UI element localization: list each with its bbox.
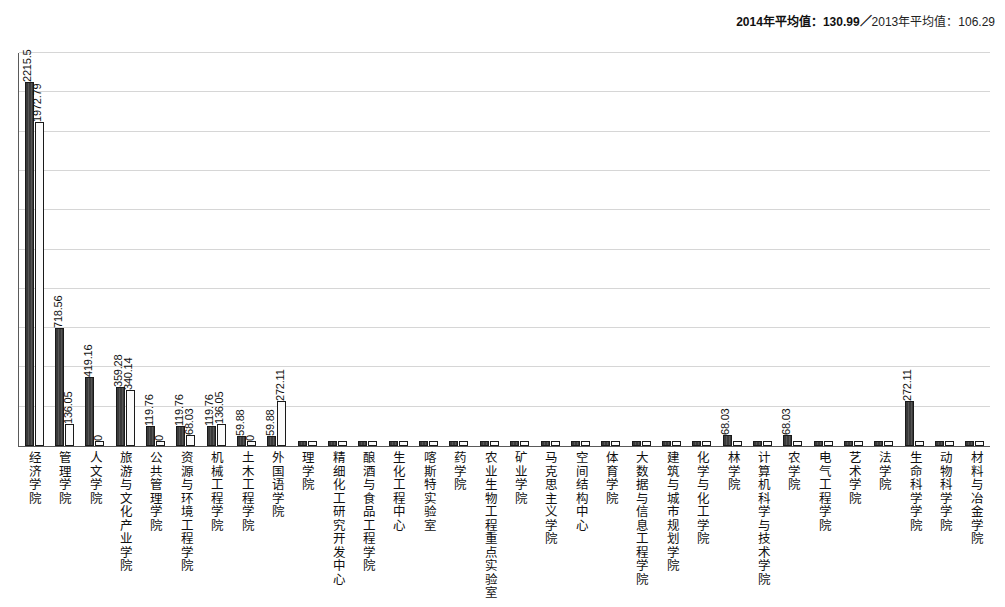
- bar-2013[interactable]: 0: [95, 441, 104, 446]
- bar-2013[interactable]: [551, 441, 560, 446]
- bar-2014[interactable]: [419, 441, 428, 446]
- bar-2013[interactable]: 0: [156, 441, 165, 446]
- bar-2013[interactable]: 272.11: [277, 401, 286, 446]
- bar-group[interactable]: [687, 53, 717, 446]
- bar-group[interactable]: [322, 53, 352, 446]
- bar-2014[interactable]: 68.03: [783, 435, 792, 446]
- bar-2013[interactable]: [733, 441, 742, 446]
- bar-2013[interactable]: 136.05: [217, 424, 226, 446]
- bar-2013[interactable]: [490, 441, 499, 446]
- bar-2013[interactable]: [824, 441, 833, 446]
- bar-2014[interactable]: 119.76: [146, 426, 155, 446]
- bar-2014[interactable]: [632, 441, 641, 446]
- bar-group[interactable]: 718.56136.05: [49, 53, 79, 446]
- bar-2013[interactable]: [459, 441, 468, 446]
- bar-2013[interactable]: [399, 441, 408, 446]
- bar-group[interactable]: 59.880: [231, 53, 261, 446]
- bar-2014[interactable]: [541, 441, 550, 446]
- category-label-text: 公共管理学院: [148, 451, 161, 532]
- bar-group[interactable]: [444, 53, 474, 446]
- bar-group[interactable]: 2215.51972.79: [19, 53, 49, 446]
- bar-group[interactable]: [596, 53, 626, 446]
- bar-2013[interactable]: 0: [247, 441, 256, 446]
- bar-2013[interactable]: 68.03: [186, 435, 195, 446]
- bar-2014[interactable]: [510, 441, 519, 446]
- bar-2013[interactable]: [793, 441, 802, 446]
- bar-2013[interactable]: [763, 441, 772, 446]
- bar-2014[interactable]: [814, 441, 823, 446]
- category-label: 机械工程学院: [200, 449, 230, 607]
- bar-2014[interactable]: [935, 441, 944, 446]
- bar-2013[interactable]: [338, 441, 347, 446]
- bar-group[interactable]: [929, 53, 959, 446]
- bar-2014[interactable]: 59.88: [237, 436, 246, 446]
- bar-2013[interactable]: [368, 441, 377, 446]
- bar-2013[interactable]: [915, 441, 924, 446]
- bar-group[interactable]: [505, 53, 535, 446]
- bar-2014[interactable]: 59.88: [267, 436, 276, 446]
- bar-2013[interactable]: [702, 441, 711, 446]
- category-label-text: 药学院: [452, 451, 465, 492]
- bar-2013[interactable]: [854, 441, 863, 446]
- bar-2014[interactable]: [449, 441, 458, 446]
- bar-2014[interactable]: 419.16: [85, 377, 94, 446]
- bar-2014[interactable]: [753, 441, 762, 446]
- bar-2013[interactable]: [672, 441, 681, 446]
- bar-group[interactable]: [383, 53, 413, 446]
- bar-2014[interactable]: [298, 441, 307, 446]
- bar-2013[interactable]: [611, 441, 620, 446]
- bar-group[interactable]: [292, 53, 322, 446]
- bar-2014[interactable]: [874, 441, 883, 446]
- bar-group[interactable]: 119.76136.05: [201, 53, 231, 446]
- bar-2014[interactable]: [844, 441, 853, 446]
- bar-group[interactable]: [747, 53, 777, 446]
- bar-2013[interactable]: [520, 441, 529, 446]
- bar-2013[interactable]: [945, 441, 954, 446]
- bar-group[interactable]: 68.03: [717, 53, 747, 446]
- bar-2014[interactable]: [662, 441, 671, 446]
- bar-2013[interactable]: [429, 441, 438, 446]
- bar-2014[interactable]: 68.03: [723, 435, 732, 446]
- bar-group[interactable]: [535, 53, 565, 446]
- category-label: 土木工程学院: [231, 449, 261, 607]
- bar-2014[interactable]: 2215.5: [25, 82, 34, 446]
- bar-2014[interactable]: [965, 441, 974, 446]
- bar-group[interactable]: 119.7668.03: [171, 53, 201, 446]
- bar-2014[interactable]: [358, 441, 367, 446]
- bar-2014[interactable]: [692, 441, 701, 446]
- bar-group[interactable]: 359.28340.14: [110, 53, 140, 446]
- bar-group[interactable]: [353, 53, 383, 446]
- bar-2014[interactable]: 718.56: [55, 328, 64, 446]
- bar-2013[interactable]: [581, 441, 590, 446]
- bar-2014[interactable]: [480, 441, 489, 446]
- bar-group[interactable]: [474, 53, 504, 446]
- bar-2014[interactable]: [601, 441, 610, 446]
- bar-group[interactable]: [869, 53, 899, 446]
- bar-group[interactable]: 272.11: [899, 53, 929, 446]
- bar-group[interactable]: [413, 53, 443, 446]
- bar-group[interactable]: 68.03: [778, 53, 808, 446]
- bar-group[interactable]: [656, 53, 686, 446]
- bar-group[interactable]: [960, 53, 990, 446]
- bar-2014[interactable]: 272.11: [905, 401, 914, 446]
- bar-2013[interactable]: [975, 441, 984, 446]
- bar-group[interactable]: [838, 53, 868, 446]
- bar-2014[interactable]: 119.76: [207, 426, 216, 446]
- bar-2013[interactable]: [884, 441, 893, 446]
- bar-group[interactable]: [565, 53, 595, 446]
- bar-group[interactable]: 119.760: [140, 53, 170, 446]
- bar-2014[interactable]: [328, 441, 337, 446]
- bar-group[interactable]: [626, 53, 656, 446]
- bar-group[interactable]: 59.88272.11: [262, 53, 292, 446]
- bar-2014[interactable]: [389, 441, 398, 446]
- bar-2014[interactable]: 359.28: [116, 387, 125, 446]
- bar-2013[interactable]: 1972.79: [35, 122, 44, 446]
- bar-2013[interactable]: 340.14: [126, 390, 135, 446]
- bar-group[interactable]: 419.160: [80, 53, 110, 446]
- bar-2014[interactable]: 119.76: [176, 426, 185, 446]
- bar-2013[interactable]: 136.05: [65, 424, 74, 446]
- bar-2013[interactable]: [642, 441, 651, 446]
- bar-group[interactable]: [808, 53, 838, 446]
- bar-2014[interactable]: [571, 441, 580, 446]
- bar-2013[interactable]: [308, 441, 317, 446]
